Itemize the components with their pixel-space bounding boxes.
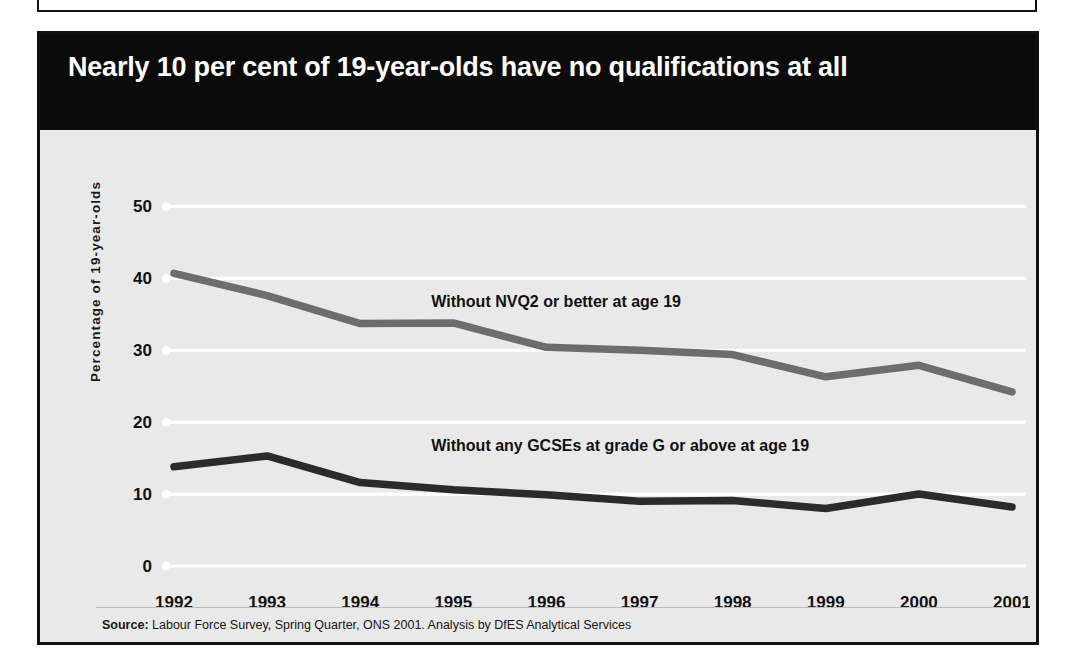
x-tick-label: 1996	[528, 593, 566, 612]
x-tick-label: 1992	[155, 593, 193, 612]
y-tick-label: 20	[133, 413, 152, 432]
source-divider	[96, 607, 1022, 608]
x-tick-label: 1995	[434, 593, 472, 612]
x-tick-label: 1993	[248, 593, 286, 612]
x-tick-label: 2001	[993, 593, 1030, 612]
page-title: Nearly 10 per cent of 19-year-olds have …	[68, 50, 996, 85]
source-text: Labour Force Survey, Spring Quarter, ONS…	[149, 618, 632, 632]
x-tick-label: 1994	[341, 593, 379, 612]
series-annotation: Without any GCSEs at grade G or above at…	[431, 437, 809, 454]
y-tick-label: 50	[133, 197, 152, 216]
y-axis-ticks: 01020304050	[133, 197, 152, 576]
title-band: Nearly 10 per cent of 19-year-olds have …	[40, 34, 1036, 130]
y-tick-label: 30	[133, 341, 152, 360]
plot-inner: Percentage of 19-year-olds 01020304050 1…	[46, 134, 1030, 636]
series-line	[174, 456, 1012, 509]
scan-top-strip	[37, 0, 1037, 12]
series-line	[174, 273, 1012, 392]
series-annotation: Without NVQ2 or better at age 19	[431, 293, 681, 310]
series-annotations: Without NVQ2 or better at age 19Without …	[431, 293, 809, 454]
chart-card: Nearly 10 per cent of 19-year-olds have …	[37, 31, 1039, 645]
x-tick-label: 1997	[621, 593, 659, 612]
plot-area: Percentage of 19-year-olds 01020304050 1…	[40, 130, 1036, 642]
x-tick-label: 1998	[714, 593, 752, 612]
figure-container: Nearly 10 per cent of 19-year-olds have …	[0, 0, 1077, 661]
y-tick-label: 10	[133, 485, 152, 504]
gridlines	[162, 202, 1026, 570]
x-axis-ticks: 1992199319941995199619971998199920002001	[155, 593, 1030, 612]
source-note: Source: Labour Force Survey, Spring Quar…	[102, 618, 1016, 632]
y-tick-label: 0	[143, 557, 152, 576]
line-chart-svg: 01020304050 1992199319941995199619971998…	[46, 134, 1030, 634]
y-tick-label: 40	[133, 269, 152, 288]
x-tick-label: 1999	[807, 593, 845, 612]
x-tick-label: 2000	[900, 593, 938, 612]
source-label: Source:	[102, 618, 149, 632]
